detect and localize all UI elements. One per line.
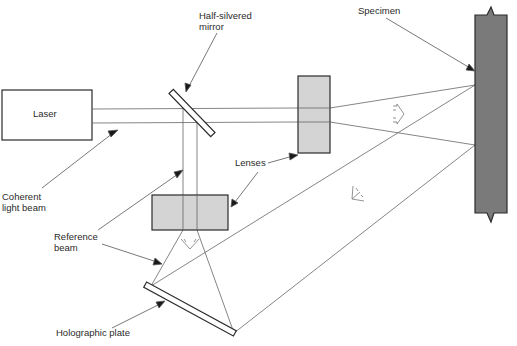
arrow-down-left-icon — [352, 186, 364, 201]
arrowhead-icon — [289, 153, 298, 160]
coherent-beams — [92, 85, 475, 333]
lenses-label: Lenses — [235, 158, 266, 169]
specimen — [475, 7, 507, 222]
arrowhead-icon — [174, 170, 183, 178]
half-silvered-mirror — [169, 89, 215, 136]
arrowhead-icon — [156, 301, 165, 308]
reference-beam-label: Reference beam — [54, 232, 98, 253]
holographic-plate — [144, 282, 237, 336]
mirror-label: Half-silvered mirror — [199, 11, 252, 32]
holographic-plate-label: Holographic plate — [56, 328, 130, 339]
holography-diagram — [0, 0, 517, 346]
arrowhead-icon — [153, 258, 162, 265]
arrow-down-icon — [181, 239, 199, 249]
laser-label: Laser — [33, 109, 57, 120]
lens-object — [298, 76, 330, 153]
arrowhead-icon — [466, 64, 475, 71]
arrow-right-icon — [393, 104, 404, 124]
arrowhead-icon — [185, 83, 191, 92]
specimen-label: Specimen — [358, 6, 400, 17]
coherent-beam-label: Coherent light beam — [2, 192, 46, 213]
lens-reference — [152, 195, 228, 230]
arrowhead-icon — [231, 199, 238, 207]
